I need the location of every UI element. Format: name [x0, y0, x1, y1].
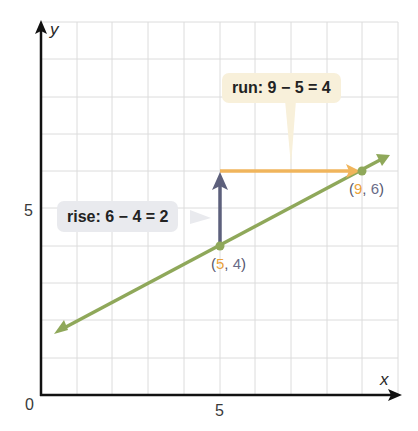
run-callout: run: 9 − 5 = 4 [222, 73, 341, 103]
point-label-9-6: (9, 6) [349, 180, 384, 197]
point-9-6 [358, 167, 367, 176]
rise-text: rise: 6 − 4 = 2 [67, 208, 168, 226]
x-axis-label: x [380, 370, 389, 390]
origin-label: 0 [25, 396, 34, 414]
run-arrow [220, 164, 360, 178]
point-5-4 [216, 242, 225, 251]
run-text: run: 9 − 5 = 4 [232, 79, 331, 97]
line-arrow-left-icon [54, 320, 68, 334]
point-label-5-4: (5, 4) [211, 255, 246, 272]
x-tick-5: 5 [215, 402, 224, 420]
rise-callout-pointer [190, 210, 211, 224]
run-callout-pointer [285, 100, 296, 166]
y-axis-label: y [50, 20, 59, 40]
rise-arrow [212, 172, 228, 246]
y-tick-5: 5 [24, 202, 33, 220]
rise-callout: rise: 6 − 4 = 2 [57, 201, 178, 232]
